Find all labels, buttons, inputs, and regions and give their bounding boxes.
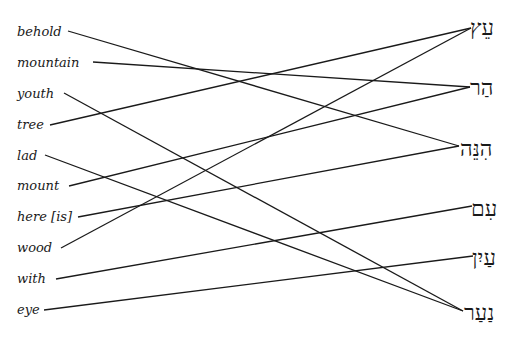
english-word[interactable]: tree: [17, 117, 44, 133]
hebrew-word[interactable]: עַיִן: [472, 245, 496, 271]
hebrew-word[interactable]: עִם: [471, 196, 497, 222]
matching-diagram: beholdmountainyouthtreeladmounthere [is]…: [0, 0, 520, 341]
connection-line: [68, 31, 459, 146]
connection-line: [64, 93, 463, 311]
connection-lines: [0, 0, 520, 341]
connection-line: [50, 28, 471, 125]
connection-line: [44, 256, 473, 310]
connection-line: [61, 28, 471, 248]
english-word[interactable]: behold: [17, 24, 62, 40]
english-word[interactable]: youth: [17, 86, 54, 102]
english-word[interactable]: mount: [17, 178, 59, 194]
english-word[interactable]: wood: [17, 240, 52, 256]
english-word[interactable]: mountain: [17, 55, 79, 71]
hebrew-word[interactable]: הַר: [470, 75, 493, 101]
connection-line: [45, 155, 463, 311]
english-word[interactable]: here [is]: [17, 209, 72, 225]
english-word[interactable]: lad: [17, 148, 37, 164]
connection-line: [93, 62, 470, 87]
hebrew-word[interactable]: נַעַר: [464, 300, 494, 326]
english-word[interactable]: with: [17, 271, 46, 287]
english-word[interactable]: eye: [17, 302, 40, 318]
hebrew-word[interactable]: עֵץ: [470, 15, 494, 41]
connection-line: [78, 146, 459, 217]
hebrew-word[interactable]: הִנֵּה: [460, 136, 492, 162]
